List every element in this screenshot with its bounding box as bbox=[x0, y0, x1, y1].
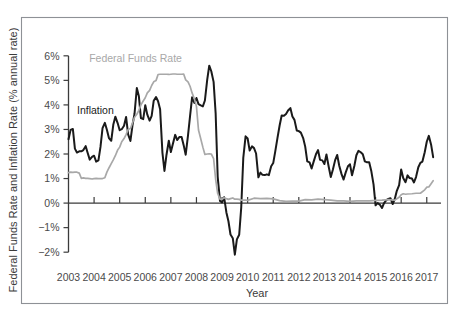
x-tick-label: 2011 bbox=[262, 271, 285, 283]
x-tick-label: 2015 bbox=[364, 271, 388, 283]
y-tick-label: 5% bbox=[44, 74, 59, 86]
y-tick-label: −1% bbox=[38, 221, 59, 233]
x-tick-label: 2016 bbox=[389, 271, 413, 283]
y-tick-label: 6% bbox=[44, 50, 59, 62]
x-tick-label: 2013 bbox=[313, 271, 337, 283]
x-tick-label: 2003 bbox=[57, 271, 81, 283]
x-tick-label: 2006 bbox=[134, 271, 158, 283]
x-tick-label: 2010 bbox=[236, 271, 260, 283]
y-axis-title: Federal Funds Rate and Inflation Rate (%… bbox=[7, 28, 19, 293]
y-tick-label: 0% bbox=[44, 197, 59, 209]
y-tick-label: 1% bbox=[44, 172, 59, 184]
series-label-inflation: Inflation bbox=[77, 104, 114, 116]
x-tick-label: 2014 bbox=[338, 271, 362, 283]
figure-frame bbox=[22, 18, 448, 304]
x-tick-label: 2012 bbox=[287, 271, 311, 283]
x-tick-label: 2017 bbox=[415, 271, 439, 283]
x-tick-label: 2007 bbox=[159, 271, 183, 283]
x-tick-label: 2008 bbox=[185, 271, 209, 283]
chart-figure: 6%5%4%3%2%1%0%−1%−2% 2003200420052006200… bbox=[0, 0, 469, 326]
y-tick-label: −2% bbox=[38, 246, 59, 258]
y-tick-label: 4% bbox=[44, 99, 59, 111]
series-label-federal-funds-rate: Federal Funds Rate bbox=[89, 52, 182, 64]
x-axis-tick-labels: 2003200420052006200720082009201020112012… bbox=[57, 271, 439, 283]
y-tick-label: 2% bbox=[44, 148, 59, 160]
x-axis-title: Year bbox=[246, 287, 269, 299]
x-tick-label: 2009 bbox=[210, 271, 234, 283]
x-tick-label: 2005 bbox=[108, 271, 132, 283]
y-tick-label: 3% bbox=[44, 123, 59, 135]
x-tick-label: 2004 bbox=[82, 271, 106, 283]
